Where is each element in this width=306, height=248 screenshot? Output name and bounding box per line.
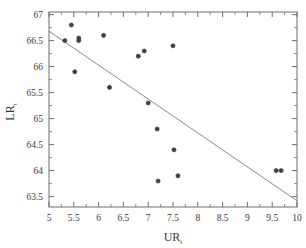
data-point — [274, 169, 278, 173]
x-tick-label: 6 — [96, 213, 101, 223]
y-tick-label: 66.5 — [26, 36, 43, 46]
data-point — [176, 174, 180, 178]
data-point — [63, 39, 67, 43]
data-point — [171, 44, 175, 48]
y-tick-label: 65 — [34, 114, 44, 124]
data-point — [279, 169, 283, 173]
figure-background — [0, 0, 306, 248]
x-tick-label: 7 — [146, 213, 151, 223]
x-tick-label: 7.5 — [167, 213, 179, 223]
data-point — [73, 70, 77, 74]
data-point — [136, 54, 140, 58]
data-point — [101, 33, 105, 37]
y-tick-label: 66 — [34, 62, 44, 72]
x-tick-label: 9 — [245, 213, 250, 223]
data-point — [156, 179, 160, 183]
y-tick-label: 65.5 — [26, 88, 43, 98]
data-point — [146, 101, 150, 105]
data-point — [172, 148, 176, 152]
data-point — [155, 127, 159, 131]
y-axis-title: LRt — [3, 103, 19, 120]
x-tick-label: 5.5 — [68, 213, 80, 223]
y-tick-label: 64.5 — [26, 140, 43, 150]
y-tick-label: 64 — [34, 166, 44, 176]
x-axis-title: URt — [164, 230, 183, 246]
data-point — [69, 23, 73, 27]
x-tick-label: 6.5 — [117, 213, 129, 223]
plot-canvas: 55.566.577.588.599.51063.56464.56565.566… — [0, 0, 306, 248]
data-point — [107, 85, 111, 89]
y-tick-label: 63.5 — [26, 192, 43, 202]
x-tick-label: 9.5 — [266, 213, 278, 223]
x-tick-label: 8 — [195, 213, 200, 223]
y-tick-label: 67 — [34, 10, 44, 20]
data-point — [142, 49, 146, 53]
x-tick-label: 8.5 — [217, 213, 229, 223]
x-tick-label: 10 — [292, 213, 302, 223]
x-tick-label: 5 — [47, 213, 52, 223]
scatter-plot-figure: 55.566.577.588.599.51063.56464.56565.566… — [0, 0, 306, 248]
data-point — [77, 39, 81, 43]
